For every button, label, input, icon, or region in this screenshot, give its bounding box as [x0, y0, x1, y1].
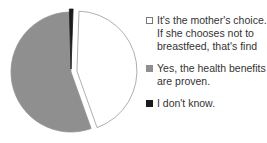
legend-item-dont-know: I don't know.	[146, 97, 267, 110]
legend-item-health-benefits: Yes, the health benefits are proven.	[146, 62, 267, 88]
legend-item-mothers-choice: It's the mother's choice. If she chooses…	[146, 14, 267, 53]
legend-swatch-grey	[146, 65, 153, 72]
legend-swatch-white	[146, 17, 153, 24]
legend-label: I don't know.	[157, 97, 215, 109]
pie-chart	[0, 0, 140, 143]
legend-label: It's the mother's choice. If she chooses…	[157, 14, 267, 52]
pie-slice-mothers-choice	[77, 11, 137, 127]
legend-swatch-black	[146, 100, 153, 107]
legend-label: Yes, the health benefits are proven.	[157, 62, 266, 87]
legend: It's the mother's choice. If she chooses…	[146, 14, 267, 119]
